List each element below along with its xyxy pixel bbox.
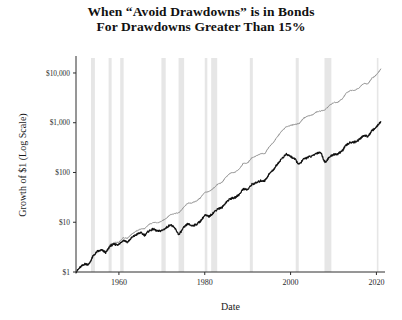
y-axis-title: Growth of $1 (Log Scale) <box>17 113 29 216</box>
y-tick-label: $10 <box>59 218 70 227</box>
recession-band <box>179 58 185 272</box>
recession-bands-layer <box>91 58 378 272</box>
recession-band <box>324 58 331 272</box>
recession-band <box>91 58 95 272</box>
y-tick-label: $10,000 <box>46 69 70 78</box>
x-tick-label: 2000 <box>283 278 299 287</box>
x-axis-title: Date <box>221 301 240 312</box>
chart-plot-area: $10,000$1,000$100$10$1 1960198020002020 … <box>0 0 402 320</box>
recession-band <box>109 58 112 272</box>
x-tick-layer: 1960198020002020 <box>111 272 385 287</box>
chart-figure: When “Avoid Drawdowns” is in Bonds For D… <box>0 0 402 320</box>
y-tick-layer: $10,000$1,000$100$10$1 <box>46 69 76 277</box>
y-tick-label: $100 <box>55 168 70 177</box>
recession-band <box>377 58 379 272</box>
x-tick-label: 2020 <box>368 278 384 287</box>
y-tick-label: $1,000 <box>50 118 71 127</box>
recession-band <box>161 58 165 272</box>
recession-band <box>205 58 208 272</box>
x-tick-label: 1960 <box>111 278 127 287</box>
x-tick-label: 1980 <box>197 278 213 287</box>
recession-band <box>211 58 217 272</box>
recession-band <box>250 58 253 272</box>
y-tick-label: $1 <box>63 268 71 277</box>
recession-band <box>296 58 299 272</box>
